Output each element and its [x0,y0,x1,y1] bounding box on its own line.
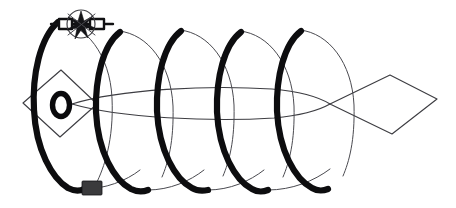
helix-coil-far-side [57,21,354,184]
helix-near-arc-2 [96,32,148,191]
swivel-hub [51,10,113,39]
line-drawing-svg [0,0,456,208]
body-upper-edge [72,88,330,104]
body-lower-edge [72,104,330,119]
kite-tail [330,75,437,134]
fish-body-outline [72,88,330,120]
helix-coil-near-side [34,22,328,191]
sinker-block-rect [82,181,102,195]
sinker-block [82,181,102,195]
figure-canvas: Helical coil wrapped around a fish-shape… [0,0,456,208]
eye-ring [53,94,70,117]
tail-kite-outline [330,75,437,134]
helix-far-arc-5 [300,30,354,176]
helix-near-arc-5 [277,31,328,190]
helix-near-arc-4 [217,32,268,191]
helix-near-arc-3 [157,31,208,191]
swivel-collar-left [59,19,72,29]
helix-near-arc-1 [34,22,84,190]
